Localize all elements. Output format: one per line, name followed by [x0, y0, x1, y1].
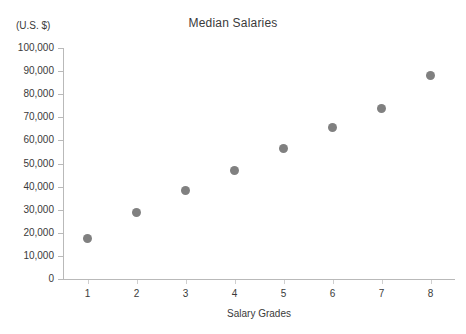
x-axis-tick-label: 6 [321, 288, 345, 299]
x-axis-title: Salary Grades [63, 308, 455, 319]
y-axis-unit-label: (U.S. $) [16, 20, 50, 31]
y-axis-tick-label: 90,000 [0, 65, 54, 76]
x-axis-tick [235, 280, 236, 284]
x-axis-tick-label: 7 [370, 288, 394, 299]
x-axis-tick [137, 280, 138, 284]
x-axis-tick-label: 3 [174, 288, 198, 299]
scatter-data-point [132, 208, 141, 217]
x-axis-tick [284, 280, 285, 284]
x-axis-tick [382, 280, 383, 284]
y-axis-tick-label: 60,000 [0, 134, 54, 145]
y-axis-tick [58, 279, 63, 280]
y-axis-tick-label: 20,000 [0, 227, 54, 238]
y-axis-tick-label: 0 [0, 273, 54, 284]
x-axis-tick [333, 280, 334, 284]
x-axis-line [63, 279, 455, 280]
scatter-data-point [426, 71, 435, 80]
x-axis-tick-label: 8 [419, 288, 443, 299]
chart-canvas: Median Salaries (U.S. $) 010,00020,00030… [0, 0, 466, 334]
x-axis-tick-label: 5 [272, 288, 296, 299]
scatter-data-point [377, 104, 386, 113]
x-axis-tick [88, 280, 89, 284]
y-axis-tick-label: 100,000 [0, 42, 54, 53]
plot-area [63, 48, 455, 279]
scatter-data-point [181, 186, 190, 195]
scatter-data-point [83, 234, 92, 243]
x-axis-tick-label: 4 [223, 288, 247, 299]
scatter-data-point [328, 123, 337, 132]
y-axis-tick-label: 40,000 [0, 181, 54, 192]
y-axis-tick-label: 30,000 [0, 204, 54, 215]
y-axis-tick-label: 80,000 [0, 88, 54, 99]
x-axis-tick [186, 280, 187, 284]
scatter-data-point [230, 166, 239, 175]
page-title: Median Salaries [0, 16, 466, 30]
y-axis-tick-label: 70,000 [0, 111, 54, 122]
y-axis-tick-label: 10,000 [0, 250, 54, 261]
scatter-data-point [279, 144, 288, 153]
x-axis-tick-label: 2 [125, 288, 149, 299]
x-axis-tick [431, 280, 432, 284]
x-axis-tick-label: 1 [76, 288, 100, 299]
y-axis-tick-label: 50,000 [0, 158, 54, 169]
